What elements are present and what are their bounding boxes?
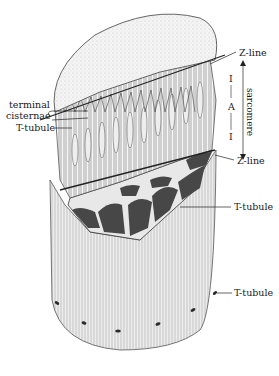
muscle-fiber-diagram: Z-line sarcomere I A I Z-line terminal c…	[0, 0, 279, 376]
a-band-text: A	[227, 101, 235, 112]
t-tubule-bottom-text: T-tubule	[234, 287, 273, 298]
t-tubule-mid-text: T-tubule	[234, 201, 273, 212]
label-z-line-top: Z-line	[210, 47, 267, 64]
terminal-text: terminal	[9, 99, 50, 110]
z-line-top-text: Z-line	[239, 47, 267, 58]
label-t-tubule-bottom: T-tubule	[217, 287, 273, 298]
z-line-bottom-text: Z-line	[237, 155, 265, 166]
t-tubule-left-text: T-tubule	[16, 122, 55, 133]
sarcomere-scale: sarcomere I A I	[227, 60, 255, 160]
label-z-line-bottom: Z-line	[215, 155, 265, 166]
cisternae-text: cisternae	[6, 110, 51, 121]
i-band-bottom-text: I	[229, 131, 233, 142]
sarcomere-text: sarcomere	[245, 88, 255, 136]
i-band-top-text: I	[229, 73, 233, 84]
